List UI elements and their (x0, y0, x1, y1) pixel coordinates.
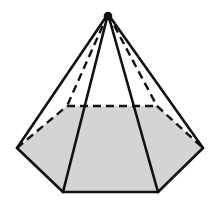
apex-vertex (105, 13, 111, 19)
pyramid-base-face (17, 106, 203, 192)
hexagonal-pyramid-diagram (0, 0, 220, 204)
hidden-edge-apex-to-back-right (108, 14, 157, 106)
